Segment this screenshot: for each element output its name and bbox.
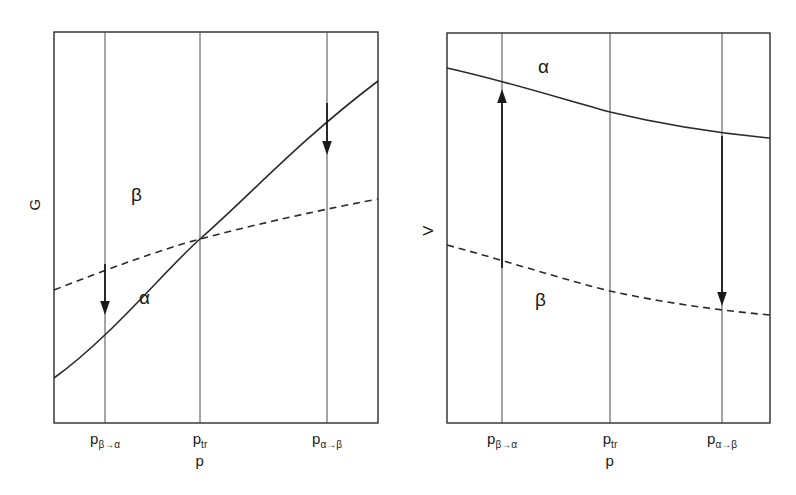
- tick-label-p-beta-to-alpha: pβ→α: [65, 430, 145, 450]
- tick-sub: α→β: [715, 439, 737, 450]
- tick-label-p-tr: ptr: [165, 430, 235, 450]
- volume-plot: [400, 0, 796, 495]
- gibbs-energy-panel: G β α pβ→α ptr pα→β p: [0, 0, 400, 495]
- tick-sub: β→α: [98, 439, 120, 450]
- tick-label-p-tr: ptr: [575, 430, 645, 450]
- arrow-beta-to-alpha: [497, 89, 507, 268]
- tick-sub: α→β: [320, 439, 342, 450]
- curve-beta: [54, 199, 378, 290]
- tick-sub: tr: [611, 439, 617, 450]
- tick-label-p-beta-to-alpha: pβ→α: [462, 430, 542, 450]
- tick-sub: tr: [201, 439, 207, 450]
- arrow-alpha-to-beta: [322, 103, 332, 155]
- x-axis-label: p: [575, 452, 645, 469]
- tick-label-p-alpha-to-beta: pα→β: [682, 430, 762, 450]
- tick-base: p: [193, 430, 201, 447]
- y-axis-label: V: [419, 219, 436, 243]
- plot-frame: [54, 32, 378, 423]
- tick-sub: β→α: [495, 439, 517, 450]
- phase-transition-figure: G β α pβ→α ptr pα→β p: [0, 0, 796, 495]
- arrow-alpha-to-beta: [717, 136, 727, 306]
- tick-base: p: [603, 430, 611, 447]
- gibbs-energy-plot: [0, 0, 400, 495]
- phase-label-alpha: α: [139, 287, 150, 309]
- phase-label-beta: β: [131, 184, 142, 206]
- tick-label-p-alpha-to-beta: pα→β: [287, 430, 367, 450]
- volume-panel: V α β pβ→α ptr pα→β p: [400, 0, 796, 495]
- x-axis-label: p: [165, 452, 235, 469]
- phase-label-beta: β: [535, 289, 546, 311]
- y-axis-label: G: [26, 193, 43, 217]
- phase-label-alpha: α: [538, 56, 549, 78]
- curve-alpha: [54, 81, 378, 378]
